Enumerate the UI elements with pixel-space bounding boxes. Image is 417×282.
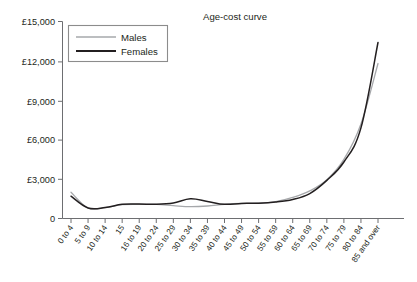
age-cost-curve-chart: Age-cost curve £15,000 £12,000 £9,000 £6…: [0, 0, 417, 282]
x-axis: 0 to 45 to 910 to 141516 to 1920 to 2425…: [56, 219, 404, 265]
y-axis-label-15000: £15,000: [22, 17, 55, 27]
x-axis-label-15: 15: [114, 223, 127, 236]
y-axis-label-6000: £6,000: [27, 135, 55, 145]
chart-svg: Age-cost curve £15,000 £12,000 £9,000 £6…: [0, 0, 417, 282]
y-axis-label-9000: £9,000: [27, 97, 55, 107]
chart-title: Age-cost curve: [203, 11, 267, 22]
y-axis-label-0: 0: [50, 214, 55, 224]
legend: Males Females: [69, 26, 168, 62]
x-axis-label-0-to-4: 0 to 4: [56, 223, 75, 245]
x-axis-labels: 0 to 45 to 910 to 141516 to 1920 to 2425…: [56, 223, 382, 264]
x-axis-ticks: [71, 219, 378, 224]
y-axis-label-12000: £12,000: [22, 57, 55, 67]
series-line-males: [71, 64, 378, 210]
y-axis-labels: £15,000 £12,000 £9,000 £6,000 £3,000 0: [22, 17, 55, 224]
y-axis-label-3000: £3,000: [27, 175, 55, 185]
y-axis: £15,000 £12,000 £9,000 £6,000 £3,000 0: [22, 17, 63, 224]
legend-label-females: Females: [121, 46, 158, 57]
plot-series: [71, 43, 378, 210]
legend-label-males: Males: [121, 32, 147, 43]
series-line-females: [71, 43, 378, 209]
y-axis-ticks: [58, 22, 63, 219]
